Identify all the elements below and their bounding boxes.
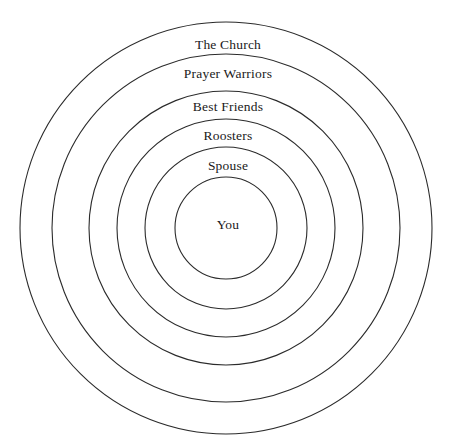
ring-label-you: You (0, 218, 456, 232)
concentric-circles-diagram: The Church Prayer Warriors Best Friends … (0, 0, 456, 446)
ring-label-prayer-warriors: Prayer Warriors (0, 67, 456, 81)
ring-label-roosters: Roosters (0, 129, 456, 143)
ring-label-spouse: Spouse (0, 159, 456, 173)
ring-label-best-friends: Best Friends (0, 100, 456, 114)
ring-label-the-church: The Church (0, 38, 456, 52)
